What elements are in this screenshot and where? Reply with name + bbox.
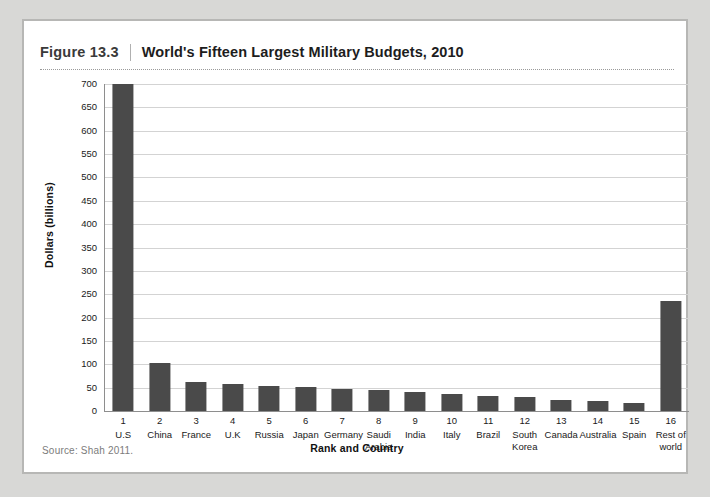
bar-slot <box>434 84 471 411</box>
y-tick-label: 250 <box>57 288 97 299</box>
x-tick-country: U.S <box>105 429 142 441</box>
x-tick-rank: 10 <box>434 414 471 427</box>
bar-slot <box>178 84 215 411</box>
x-tick-group: 6Japan <box>288 414 325 441</box>
bar[interactable] <box>478 396 499 411</box>
x-tick-rank: 1 <box>105 414 142 427</box>
x-tick-group: 14Australia <box>580 414 617 441</box>
x-tick-group: 1U.S <box>105 414 142 441</box>
x-tick-country: China <box>142 429 179 441</box>
bar-slot <box>324 84 361 411</box>
bar[interactable] <box>259 386 280 411</box>
y-tick-label: 0 <box>57 405 97 416</box>
x-tick-rank: 3 <box>178 414 215 427</box>
x-tick-country: Italy <box>434 429 471 441</box>
x-tick-rank: 11 <box>470 414 507 427</box>
y-tick-label: 700 <box>57 78 97 89</box>
x-tick-country: U.K <box>215 429 252 441</box>
x-tick-rank: 2 <box>142 414 179 427</box>
x-tick-country: Germany <box>324 429 361 441</box>
x-tick-rank: 13 <box>543 414 580 427</box>
y-tick-label: 550 <box>57 148 97 159</box>
bar[interactable] <box>551 400 572 411</box>
y-tick-label: 400 <box>57 218 97 229</box>
figure-title: World's Fifteen Largest Military Budgets… <box>142 44 464 60</box>
x-tick-rank: 9 <box>397 414 434 427</box>
y-tick-label: 100 <box>57 358 97 369</box>
x-tick-group: 13Canada <box>543 414 580 441</box>
x-tick-group: 3France <box>178 414 215 441</box>
header-divider <box>130 44 131 61</box>
y-tick-label: 350 <box>57 242 97 253</box>
x-tick-group: 7Germany <box>324 414 361 441</box>
bar[interactable] <box>186 382 207 411</box>
x-tick-country: Brazil <box>470 429 507 441</box>
y-tick-label: 450 <box>57 195 97 206</box>
y-axis-title: Dollars (billions) <box>43 145 55 305</box>
x-tick-country: Australia <box>580 429 617 441</box>
y-tick-label: 500 <box>57 171 97 182</box>
bar[interactable] <box>113 84 134 411</box>
bar-slot <box>105 84 142 411</box>
bar-slot <box>507 84 544 411</box>
bar-slot <box>251 84 288 411</box>
x-tick-country: Spain <box>616 429 653 441</box>
x-tick-rank: 12 <box>507 414 544 427</box>
x-tick-country: Russia <box>251 429 288 441</box>
bar[interactable] <box>295 387 316 411</box>
bar-slot <box>215 84 252 411</box>
bar[interactable] <box>587 401 608 411</box>
x-tick-rank: 5 <box>251 414 288 427</box>
bar[interactable] <box>332 389 353 411</box>
bar-slot <box>142 84 179 411</box>
bar[interactable] <box>660 301 681 411</box>
bar[interactable] <box>624 403 645 411</box>
bar-slot <box>470 84 507 411</box>
x-tick-country: Japan <box>288 429 325 441</box>
y-tick-label: 600 <box>57 125 97 136</box>
source-note: Source: Shah 2011. <box>42 445 133 456</box>
bar[interactable] <box>441 394 462 411</box>
x-tick-rank: 14 <box>580 414 617 427</box>
x-tick-group: 10Italy <box>434 414 471 441</box>
bar-slot <box>616 84 653 411</box>
figure-card: Figure 13.3 World's Fifteen Largest Mili… <box>22 19 688 474</box>
bar-chart: Dollars (billions) 700650600550500450400… <box>24 76 690 421</box>
x-tick-rank: 16 <box>653 414 690 427</box>
x-tick-country: India <box>397 429 434 441</box>
y-tick-label: 300 <box>57 265 97 276</box>
bar-slot <box>653 84 690 411</box>
x-tick-rank: 4 <box>215 414 252 427</box>
bar[interactable] <box>405 392 426 411</box>
x-tick-country: France <box>178 429 215 441</box>
header-dotted-rule <box>40 69 674 70</box>
bar-slot <box>543 84 580 411</box>
y-tick-label: 650 <box>57 101 97 112</box>
x-axis-line <box>104 411 689 412</box>
y-tick-label: 200 <box>57 312 97 323</box>
bar[interactable] <box>149 363 170 411</box>
bar[interactable] <box>514 397 535 411</box>
x-tick-group: 11Brazil <box>470 414 507 441</box>
x-tick-group: 2China <box>142 414 179 441</box>
bar-slot <box>580 84 617 411</box>
y-tick-label: 50 <box>57 382 97 393</box>
bar[interactable] <box>222 384 243 411</box>
bar-slot <box>397 84 434 411</box>
x-tick-group: 4U.K <box>215 414 252 441</box>
bar[interactable] <box>368 390 389 411</box>
bar-slot <box>361 84 398 411</box>
x-tick-group: 15Spain <box>616 414 653 441</box>
x-tick-group: 9India <box>397 414 434 441</box>
x-tick-rank: 8 <box>361 414 398 427</box>
bar-slot <box>288 84 325 411</box>
y-tick-label: 150 <box>57 335 97 346</box>
figure-header: Figure 13.3 World's Fifteen Largest Mili… <box>40 35 672 69</box>
plot-bars <box>105 84 689 411</box>
x-tick-rank: 7 <box>324 414 361 427</box>
figure-number: Figure 13.3 <box>40 44 119 60</box>
x-tick-rank: 15 <box>616 414 653 427</box>
x-tick-group: 5Russia <box>251 414 288 441</box>
x-tick-rank: 6 <box>288 414 325 427</box>
x-tick-country: Canada <box>543 429 580 441</box>
